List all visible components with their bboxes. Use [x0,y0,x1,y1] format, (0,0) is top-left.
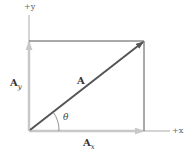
angle-arc [53,112,59,131]
y-component-label: Ay [10,78,22,91]
y-axis-label: +y [24,3,35,11]
angle-theta-label: θ [63,113,68,122]
x-component-label-main: A [83,137,91,148]
x-component-label: Ax [83,138,95,151]
vector-diagram [0,0,193,153]
y-component-label-main: A [10,77,18,88]
x-axis-label: +x [172,127,183,135]
resultant-vector-arrow [30,42,143,130]
y-component-subscript: y [18,83,22,91]
x-component-subscript: x [91,143,95,151]
resultant-vector-label: A [77,76,85,86]
